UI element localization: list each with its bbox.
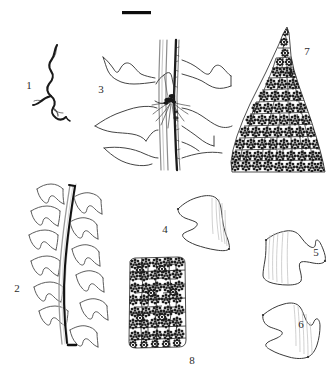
- illustration-canvas: 1: [0, 0, 335, 384]
- panel-number-5: 5: [313, 246, 319, 258]
- panel-7-leaf-apex-areolation: [229, 27, 327, 173]
- scale-bar: [122, 11, 151, 14]
- panel-number-3: 3: [98, 83, 104, 95]
- panel-3-stem-with-rhizoids: [95, 40, 232, 170]
- figure-plate: 1: [0, 0, 335, 384]
- panel-1-habit-sketch: [33, 45, 70, 121]
- panel-number-2: 2: [14, 282, 20, 294]
- panel-number-7: 7: [304, 45, 310, 57]
- panel-number-1: 1: [26, 79, 32, 91]
- panel-4-leaf-outline: [177, 196, 230, 251]
- panel-8-median-cell-areolation: [127, 256, 186, 349]
- panel-number-8: 8: [189, 354, 195, 366]
- panel-2-stem-with-leaves: [29, 184, 108, 347]
- panel-number-4: 4: [162, 223, 168, 235]
- panel-number-6: 6: [298, 318, 304, 330]
- panel-6-leaf-outline: [262, 303, 320, 359]
